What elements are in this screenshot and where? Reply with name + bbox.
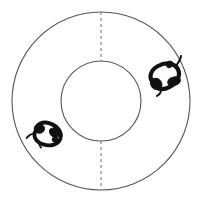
inner-wall-circle: [61, 61, 141, 141]
arena-diagram: [0, 0, 204, 201]
rodent-left-head: [34, 124, 45, 134]
figure-root: [0, 0, 204, 201]
